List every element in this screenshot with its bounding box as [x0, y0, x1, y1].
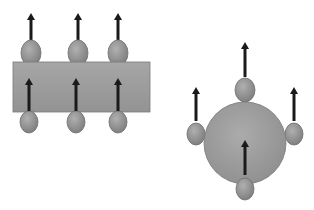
up-arrow-icon-left-head [192, 87, 200, 94]
particle-top [235, 78, 255, 102]
up-arrow-icon-right-head [290, 87, 298, 94]
rectangle-body [13, 62, 150, 112]
up-arrow-icon-top-2-head [74, 13, 82, 20]
particle-left [187, 123, 205, 145]
up-arrow-icon-top-head [241, 42, 249, 49]
particle-bottom-2 [67, 111, 85, 133]
particle-bottom-3 [109, 111, 127, 133]
particle-bottom [236, 178, 254, 200]
particle-bottom-1 [20, 111, 38, 133]
up-arrow-icon-top-3-head [114, 13, 122, 20]
particle-right [285, 123, 303, 145]
up-arrow-icon-top-1-head [27, 13, 35, 20]
left-figure-rectangle-group [13, 13, 150, 133]
right-figure-circle-group [187, 42, 303, 200]
diagram-svg [0, 0, 314, 210]
diagram-canvas [0, 0, 314, 210]
